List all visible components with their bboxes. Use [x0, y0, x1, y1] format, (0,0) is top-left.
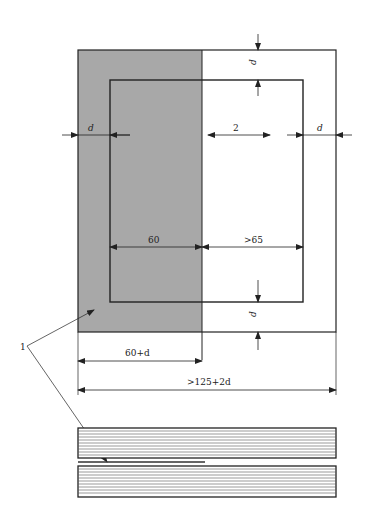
dim-60-plus-d: 60+d: [125, 348, 150, 358]
callout-label-1: 1: [20, 342, 26, 352]
dim-gap-2: 2: [233, 123, 239, 133]
dim-d-bottom: d: [248, 311, 258, 317]
dim-60: 60: [148, 235, 160, 245]
dim-gt125-plus-2d: >125+2d: [187, 377, 231, 387]
shaded-overlap-area: [78, 50, 202, 332]
dim-gt65: >65: [244, 235, 263, 245]
specimen-diagram: d d 2 d 60 >65 d 60+d >125+2d 1: [0, 0, 369, 530]
dim-d-right: d: [317, 123, 323, 133]
lower-laminate-bar: [78, 466, 336, 497]
upper-laminate-bar: [78, 428, 336, 458]
dim-d-top: d: [248, 59, 258, 65]
dim-d-left: d: [88, 123, 94, 133]
